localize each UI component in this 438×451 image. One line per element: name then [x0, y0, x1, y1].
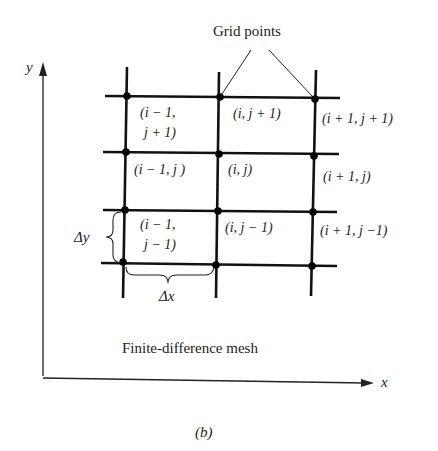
panel-label: (b)	[195, 424, 213, 441]
dy-label: Δy	[74, 229, 89, 246]
figure-caption: Finite-difference mesh	[122, 340, 258, 357]
y-axis-arrow-icon	[39, 62, 47, 76]
cell-label-line: j + 1)	[140, 123, 176, 143]
cell-label-line: (i − 1,	[140, 215, 176, 235]
cell-label-im1-j: (i − 1, j )	[134, 161, 185, 178]
x-axis-arrow-icon	[361, 379, 374, 387]
callout-line-right	[269, 50, 312, 96]
dx-label: Δx	[159, 288, 174, 305]
x-axis-label: x	[381, 374, 388, 391]
cell-label-ip1-jp1: (i + 1, j + 1)	[322, 110, 393, 127]
cell-label-line: (i − 1,	[140, 103, 176, 123]
dy-brace-icon	[106, 212, 121, 263]
cell-label-im1-jp1: (i − 1, j + 1)	[140, 103, 176, 143]
dx-brace-icon	[126, 267, 214, 283]
cell-label-line: j − 1)	[140, 235, 176, 255]
cell-label-im1-jm1: (i − 1, j − 1)	[140, 215, 176, 255]
grid-points-callout: Grid points	[213, 23, 281, 40]
cell-label-i-jm1: (i, j − 1)	[225, 219, 273, 236]
cell-label-i-jp1: (i, j + 1)	[233, 105, 281, 122]
cell-label-ip1-jm1: (i + 1, j −1)	[320, 222, 388, 239]
y-axis-label: y	[26, 59, 33, 76]
horizontal-grid-lines	[101, 96, 340, 266]
callout-line-left	[222, 50, 251, 94]
x-axis	[43, 378, 365, 383]
cell-label-ip1-j: (i + 1, j)	[323, 168, 371, 185]
cell-label-i-j: (i, j)	[228, 161, 252, 178]
